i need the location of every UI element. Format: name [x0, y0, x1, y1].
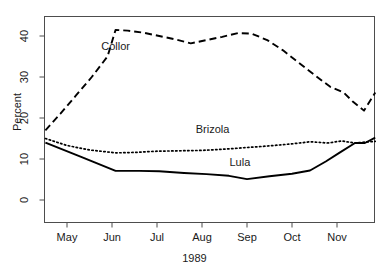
- x-axis-title: 1989: [0, 252, 389, 264]
- series-lines: [45, 30, 375, 179]
- x-tick-label: Nov: [307, 231, 367, 243]
- y-tick-label: 40: [17, 21, 31, 51]
- plot-border: [45, 17, 375, 223]
- series-label-brizola: Brizola: [196, 123, 230, 135]
- series-label-lula: Lula: [230, 156, 251, 168]
- y-tick-label: 0: [17, 185, 31, 215]
- y-axis-title: Percent: [11, 82, 23, 142]
- series-label-collor: Collor: [101, 40, 130, 52]
- series-line-lula: [45, 138, 375, 179]
- plot-frame: [45, 17, 375, 223]
- line-chart: 010203040 MayJunJulAugSepOctNov CollorBr…: [0, 0, 389, 276]
- series-line-brizola: [45, 139, 375, 153]
- y-axis-ticks: [40, 36, 45, 200]
- y-tick-label: 10: [17, 144, 31, 174]
- series-line-collor: [45, 30, 375, 130]
- x-axis-ticks: [67, 223, 337, 228]
